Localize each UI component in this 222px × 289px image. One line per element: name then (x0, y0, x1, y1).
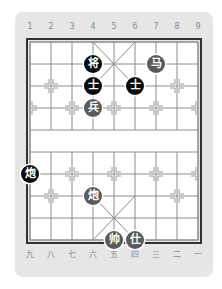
piece-red-cannon[interactable]: 炮 (84, 187, 102, 205)
piece-red-soldier[interactable]: 兵 (84, 99, 102, 117)
piece-red-general[interactable]: 帅 (105, 231, 123, 249)
piece-red-advisor[interactable]: 仕 (126, 231, 144, 249)
piece-black-general[interactable]: 将 (84, 55, 102, 73)
piece-black-advisor-right[interactable]: 士 (126, 77, 144, 95)
piece-black-cannon[interactable]: 炮 (21, 165, 39, 183)
piece-black-advisor-left[interactable]: 士 (84, 77, 102, 95)
piece-red-horse[interactable]: 马 (147, 55, 165, 73)
